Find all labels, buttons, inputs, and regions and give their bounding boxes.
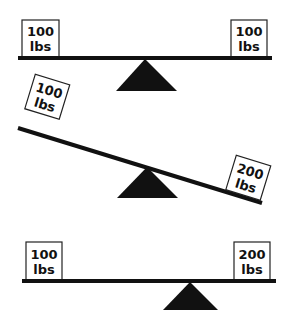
- weight-box-right: 100 lbs: [231, 20, 267, 57]
- panel-shifted-fulcrum: 100 lbs 200 lbs: [22, 242, 276, 310]
- weight-box-left: 100 lbs: [26, 242, 62, 280]
- fulcrum-triangle: [163, 282, 218, 310]
- panel-tilted: 100 lbs 200 lbs: [18, 74, 271, 203]
- svg-text:lbs: lbs: [238, 39, 260, 54]
- svg-text:100: 100: [235, 24, 262, 39]
- seesaw-diagram: 100 lbs 100 lbs 100 lbs 200 lbs 100 lb: [0, 0, 292, 333]
- svg-text:lbs: lbs: [30, 39, 52, 54]
- svg-text:lbs: lbs: [241, 262, 263, 277]
- svg-text:lbs: lbs: [33, 262, 55, 277]
- svg-text:200: 200: [238, 247, 265, 262]
- svg-text:100: 100: [27, 24, 54, 39]
- weight-box-left: 100 lbs: [22, 20, 59, 57]
- weight-box-left: 100 lbs: [25, 74, 70, 119]
- beam: [22, 279, 276, 283]
- fulcrum-triangle: [117, 167, 178, 198]
- fulcrum-triangle: [116, 59, 177, 91]
- svg-text:100: 100: [30, 247, 57, 262]
- weight-box-right: 200 lbs: [234, 242, 270, 280]
